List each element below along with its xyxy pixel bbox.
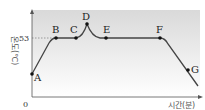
x-axis-arrow-icon: [198, 95, 203, 99]
point-c: [74, 36, 78, 40]
label-a: A: [33, 72, 42, 83]
point-f: [158, 36, 162, 40]
point-d: [85, 22, 89, 26]
x-tick-0: 0: [23, 100, 28, 109]
point-e: [104, 36, 108, 40]
point-g: [186, 68, 190, 72]
temperature-time-chart: A B C D E F G 53 0 온도(℃) 시간(분): [0, 0, 205, 110]
y-axis-label: 온도(℃): [10, 36, 19, 65]
label-g: G: [191, 64, 199, 75]
label-d: D: [82, 11, 90, 22]
label-f: F: [156, 24, 163, 35]
y-tick-53: 53: [19, 34, 29, 43]
x-axis-label: 시간(분): [168, 100, 195, 110]
point-b: [54, 36, 58, 40]
label-c: C: [70, 24, 78, 35]
label-e: E: [103, 24, 110, 35]
label-b: B: [52, 24, 59, 35]
